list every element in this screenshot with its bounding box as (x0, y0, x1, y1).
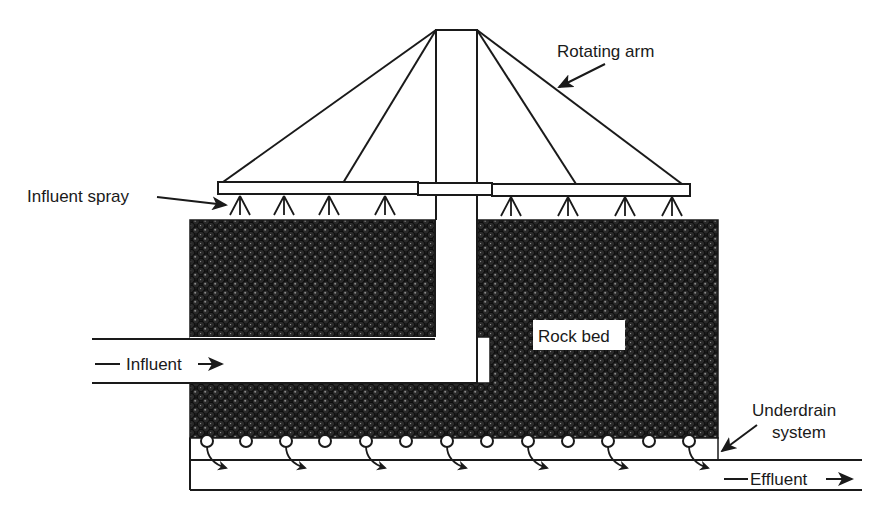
pointer-arrow-icon (722, 425, 757, 451)
pointer-arrow-icon (157, 197, 226, 205)
underdrain-text-line2: system (772, 423, 826, 442)
label-influent-spray: Influent spray (27, 187, 226, 206)
spray-nozzle-icon (274, 196, 294, 215)
pointer-arrow-icon (559, 64, 605, 87)
spray-nozzle-icon (375, 196, 395, 215)
underdrain-system (190, 435, 718, 460)
rock-bed-label: Rock bed (533, 320, 625, 350)
rotating-arm-text: Rotating arm (557, 42, 654, 61)
spray-nozzle-icon (501, 197, 521, 216)
trickling-filter-diagram: Rock bed (0, 0, 885, 513)
spray-nozzles (230, 196, 682, 216)
underdrain-text-line1: Underdrain (752, 401, 836, 420)
influent-text: Influent (126, 355, 182, 374)
spray-nozzle-icon (319, 196, 339, 215)
spray-nozzle-icon (662, 197, 682, 216)
spray-nozzle-icon (615, 197, 635, 216)
rock-bed-text: Rock bed (538, 327, 610, 346)
spray-nozzle-icon (230, 196, 250, 215)
rock-bed (190, 220, 718, 438)
spray-nozzle-icon (558, 197, 578, 216)
label-underdrain: Underdrain system (722, 401, 836, 451)
label-effluent: Effluent (724, 470, 852, 489)
label-rotating-arm: Rotating arm (557, 42, 654, 87)
influent-spray-text: Influent spray (27, 187, 130, 206)
effluent-text: Effluent (750, 470, 808, 489)
